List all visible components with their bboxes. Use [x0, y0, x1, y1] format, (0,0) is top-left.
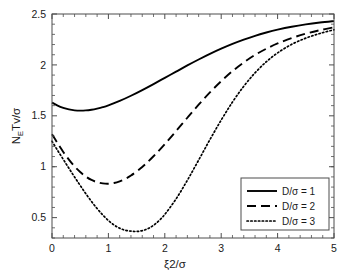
- x-tick-label: 2: [162, 242, 168, 254]
- legend-label-3: D/σ = 3: [282, 216, 316, 227]
- x-tick-label: 1: [105, 242, 111, 254]
- x-axis-title: ξ2/σ: [164, 258, 186, 270]
- y-tick-label: 1: [40, 160, 46, 172]
- x-tick-label: 4: [275, 242, 281, 254]
- y-axis-title: NETv/σ: [10, 108, 25, 144]
- figure-container: 0123450.511.522.5 ξ2/σ NETv/σ D/σ = 1D/σ…: [0, 0, 348, 275]
- y-tick-label: 2.5: [31, 8, 46, 20]
- line-chart: 0123450.511.522.5 ξ2/σ NETv/σ D/σ = 1D/σ…: [0, 0, 348, 275]
- y-tick-label: 0.5: [31, 211, 46, 223]
- x-tick-label: 3: [218, 242, 224, 254]
- y-tick-label: 1.5: [31, 109, 46, 121]
- svg-text:NETv/σ: NETv/σ: [10, 108, 25, 144]
- y-tick-label: 2: [40, 59, 46, 71]
- x-tick-label: 5: [331, 242, 337, 254]
- legend-label-2: D/σ = 2: [282, 201, 316, 212]
- y-axis-title-rest: Tv/σ: [10, 108, 22, 131]
- legend-label-1: D/σ = 1: [282, 186, 316, 197]
- y-axis-title-n: N: [10, 136, 22, 144]
- x-tick-label: 0: [49, 242, 55, 254]
